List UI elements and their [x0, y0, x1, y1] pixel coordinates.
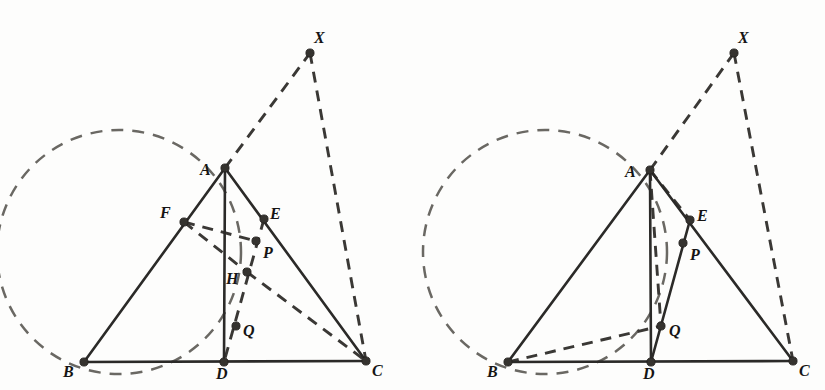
geometry-canvas: [0, 0, 825, 390]
point-label-q: Q: [669, 323, 681, 339]
vertex-dot-c: [789, 357, 797, 365]
dashed-segment-fp: [184, 222, 256, 241]
point-label-c: C: [372, 363, 383, 379]
point-label-q: Q: [243, 323, 255, 339]
right-figure: [423, 49, 797, 374]
point-label-p: P: [263, 245, 273, 261]
dashed-segment-fh: [184, 222, 247, 272]
solid-cevian-ad: [224, 168, 225, 362]
vertex-dot-q: [657, 322, 665, 330]
vertex-dot-a: [221, 164, 229, 172]
point-label-h: H: [226, 271, 238, 287]
point-label-d: D: [216, 366, 228, 382]
vertex-dot-x: [306, 49, 314, 57]
vertex-dot-f: [180, 218, 188, 226]
vertex-dot-p: [679, 239, 687, 247]
point-label-e: E: [697, 208, 708, 224]
dashed-ray-ax: [650, 53, 734, 170]
vertex-dot-x: [730, 49, 738, 57]
point-label-a: A: [200, 162, 211, 178]
point-label-a: A: [625, 164, 636, 180]
point-label-c: C: [799, 363, 810, 379]
vertex-dot-a: [646, 166, 654, 174]
point-label-d: D: [643, 366, 655, 382]
geometry-figure-board: ABCDEFHPQXABCDEPQX: [0, 0, 825, 390]
point-label-x: X: [314, 30, 325, 46]
point-label-e: E: [270, 206, 281, 222]
vertex-dot-h: [243, 268, 251, 276]
point-label-b: B: [487, 364, 498, 380]
vertex-dot-e: [260, 215, 268, 223]
vertex-dot-e: [686, 216, 694, 224]
point-label-p: P: [690, 247, 700, 263]
dashed-ray-ax: [225, 53, 310, 168]
vertex-dot-c: [362, 357, 370, 365]
vertex-dot-b: [80, 358, 88, 366]
left-figure: [0, 49, 370, 374]
point-label-f: F: [160, 205, 171, 221]
point-label-b: B: [63, 364, 74, 380]
solid-side-ab: [84, 168, 225, 362]
dashed-segment-xc: [310, 53, 366, 361]
dashed-segment-xc: [734, 53, 793, 361]
vertex-dot-p: [252, 237, 260, 245]
vertex-dot-b: [504, 358, 512, 366]
vertex-dot-q: [232, 322, 240, 330]
point-label-x: X: [738, 30, 749, 46]
solid-cevian-ad: [650, 170, 651, 362]
dashed-segment-hc: [247, 272, 366, 361]
